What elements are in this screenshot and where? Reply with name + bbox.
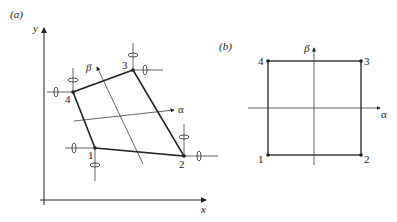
alpha-label-b: α: [381, 108, 387, 120]
node-4: 4: [47, 68, 78, 105]
node-b-1: [266, 153, 270, 157]
node-b-4: [266, 59, 270, 63]
node-2: 2: [179, 124, 218, 170]
y-axis-label: y: [32, 22, 38, 34]
panel-b-label: (b): [219, 40, 232, 53]
svg-text:4: 4: [65, 93, 71, 105]
svg-text:2: 2: [179, 158, 185, 170]
alpha-label: α: [178, 103, 184, 115]
alpha-axis: [74, 110, 174, 121]
node-1: 1: [65, 143, 100, 181]
beta-label-b: β: [303, 42, 310, 54]
node-b-1-label: 1: [258, 153, 264, 165]
quad-element: [73, 70, 184, 156]
node-b-3-label: 3: [364, 55, 370, 67]
panel-a-label: (a): [10, 8, 23, 21]
svg-text:3: 3: [122, 59, 128, 71]
node-b-2: [359, 153, 363, 157]
node-b-2-label: 2: [364, 153, 370, 165]
panel-a: (a) y x α β 1 2: [10, 8, 218, 215]
node-b-3: [359, 59, 363, 63]
beta-label: β: [85, 61, 92, 73]
node-b-4-label: 4: [258, 55, 264, 67]
node-3: 3: [122, 43, 163, 75]
svg-text:1: 1: [88, 149, 94, 161]
panel-b: (b) α β 1 2 3 4: [219, 40, 387, 165]
diagram-canvas: (a) y x α β 1 2: [0, 0, 397, 222]
x-axis-label: x: [200, 203, 206, 215]
